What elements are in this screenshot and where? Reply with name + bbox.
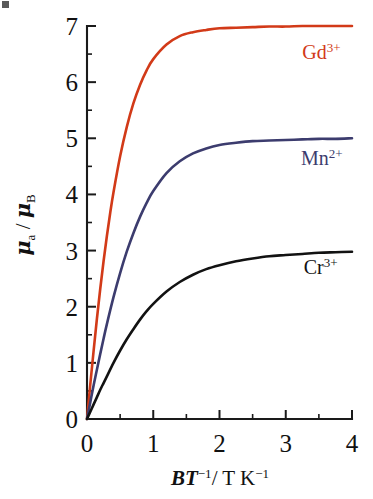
series-label-cr3+: Cr3+ <box>304 255 338 278</box>
chart-figure: 0123456701234 Gd3+Mn2+Cr3+ BT−1/ T K−1 μ… <box>0 0 373 499</box>
svg-text:μa / μB: μa / μB <box>10 194 38 256</box>
y-tick-label: 3 <box>66 238 79 265</box>
x-axis-title: BT−1/ T K−1 <box>170 466 269 490</box>
y-tick-label: 4 <box>66 181 79 208</box>
series-label-mn2+: Mn2+ <box>301 146 343 169</box>
y-tick-label: 6 <box>66 69 79 96</box>
scan-artifact <box>2 1 9 8</box>
svg-text:BT−1/ T K−1: BT−1/ T K−1 <box>170 466 269 490</box>
x-tick-label: 3 <box>280 430 293 457</box>
y-tick-label: 0 <box>66 406 79 433</box>
y-tick-label: 1 <box>66 350 79 377</box>
x-tick-label: 0 <box>81 430 94 457</box>
curve-gd3+ <box>87 26 352 419</box>
tick-marks <box>87 26 352 419</box>
brillouin-plot-svg: 0123456701234 Gd3+Mn2+Cr3+ BT−1/ T K−1 μ… <box>0 0 373 499</box>
series-labels: Gd3+Mn2+Cr3+ <box>301 40 343 279</box>
x-tick-label: 1 <box>147 430 160 457</box>
tick-labels: 0123456701234 <box>66 13 359 457</box>
curve-mn2+ <box>87 138 352 419</box>
y-tick-label: 5 <box>66 125 79 152</box>
series-label-gd3+: Gd3+ <box>302 40 340 63</box>
x-tick-label: 2 <box>213 430 226 457</box>
y-tick-label: 7 <box>66 13 79 40</box>
data-curves <box>87 26 352 419</box>
axis-lines <box>87 26 352 419</box>
axes <box>87 26 352 419</box>
x-tick-label: 4 <box>346 430 359 457</box>
y-tick-label: 2 <box>66 294 79 321</box>
y-axis-title: μa / μB <box>10 194 38 256</box>
